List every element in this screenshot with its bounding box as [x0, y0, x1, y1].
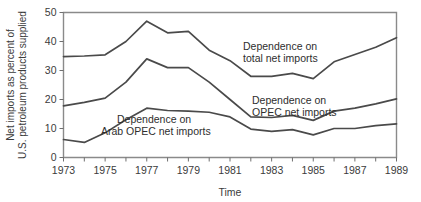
- line-chart: Net imports as percent of U.S. petroleum…: [0, 0, 421, 202]
- x-tick-label: 1981: [218, 164, 242, 176]
- x-tick-label: 1987: [343, 164, 367, 176]
- y-tick-label: 30: [45, 64, 57, 76]
- x-axis-title: Time: [219, 186, 242, 198]
- annotation-total-line2: total net imports: [243, 52, 318, 64]
- annotation-total: Dependence on total net imports: [243, 40, 318, 64]
- y-axis-title-line2: U.S. petroleum products supplied: [17, 11, 28, 159]
- x-tick-label: 1985: [302, 164, 326, 176]
- y-tick-label: 50: [45, 6, 57, 18]
- annotation-opec: Dependence on OPEC net imports: [252, 94, 337, 118]
- y-tick-label: 0: [51, 151, 57, 163]
- x-axis-ticks: 197319751977197919811983198519871989: [52, 158, 409, 176]
- x-tick-label: 1979: [177, 164, 201, 176]
- annotation-arab-opec-line1: Dependence on: [117, 113, 191, 125]
- y-tick-label: 20: [45, 93, 57, 105]
- y-tick-label: 10: [45, 122, 57, 134]
- y-tick-label: 40: [45, 35, 57, 47]
- x-tick-label: 1977: [135, 164, 159, 176]
- y-axis-title: Net imports as percent of U.S. petroleum…: [5, 11, 28, 159]
- x-tick-label: 1973: [52, 164, 76, 176]
- annotation-total-line1: Dependence on: [243, 40, 317, 52]
- y-axis-title-line1: Net imports as percent of: [5, 29, 16, 141]
- annotation-opec-line1: Dependence on: [252, 94, 326, 106]
- annotation-opec-line2: OPEC net imports: [252, 106, 337, 118]
- x-tick-label: 1983: [260, 164, 284, 176]
- x-tick-label: 1989: [385, 164, 409, 176]
- chart-figure: Net imports as percent of U.S. petroleum…: [0, 0, 421, 202]
- annotation-arab-opec-line2: Arab OPEC net imports: [101, 125, 211, 137]
- x-tick-label: 1975: [93, 164, 117, 176]
